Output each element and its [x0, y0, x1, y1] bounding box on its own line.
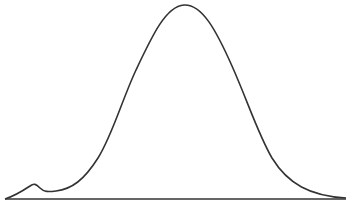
distribution-curve [5, 5, 346, 199]
distribution-diagram [0, 0, 352, 211]
